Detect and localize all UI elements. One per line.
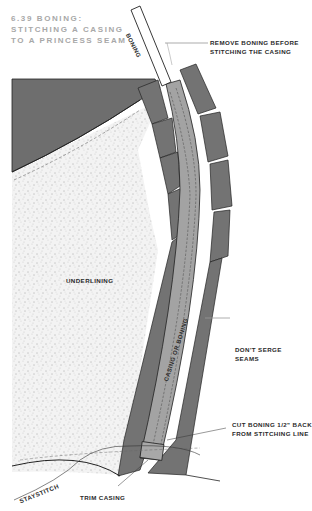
cut-boning-label: Cut boning 1/2" back from stitching line xyxy=(232,420,312,438)
cut-boning-line-2: from stitching line xyxy=(232,429,312,438)
remove-boning-line-1: Remove boning before xyxy=(210,38,299,47)
remove-boning-label: Remove boning before stitching the casin… xyxy=(210,38,299,56)
dont-serge-label: Don't serge seams xyxy=(235,345,282,363)
trim-casing-label: Trim casing xyxy=(80,493,125,502)
dont-serge-line-1: Don't serge xyxy=(235,345,282,354)
cut-boning-line-1: Cut boning 1/2" back xyxy=(232,420,312,429)
dont-serge-line-2: seams xyxy=(235,354,282,363)
underlining-label: Underlining xyxy=(66,276,113,285)
casing-end xyxy=(140,442,164,461)
remove-boning-line-2: stitching the casing xyxy=(210,47,299,56)
